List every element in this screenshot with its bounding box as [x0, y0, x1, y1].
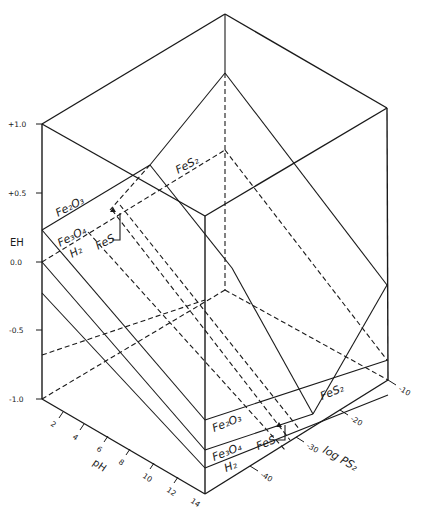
ph-tick-10: 10 [141, 471, 154, 484]
label-h2-left: H₂ [67, 243, 85, 261]
left-face-boundaries [42, 73, 387, 468]
ps2-axis-label: log PS₂ [321, 443, 361, 474]
ps2-tick-m30: -30 [305, 441, 320, 455]
label-fe2o3-left: Fe₂O₃ [53, 194, 87, 220]
ph-axis: 2 4 6 8 10 12 14 pH [49, 412, 202, 509]
label-fes2-front: FeS₂ [318, 381, 346, 402]
ps2-tick-m10: -10 [397, 384, 412, 398]
ps2-tick-m40: -40 [259, 470, 274, 484]
ph-axis-label: pH [91, 457, 109, 474]
ph-tick-12: 12 [165, 485, 178, 498]
eh-tick-p10: +1.0 [8, 120, 26, 129]
phase-labels-left: Fe₂O₃ Fe₃O₄ H₂ FeS FeS₂ [53, 153, 201, 260]
ph-tick-8: 8 [117, 457, 126, 467]
ph-tick-6: 6 [95, 444, 104, 454]
label-fes-front: FeS [254, 433, 278, 453]
eh-tick-p05: +0.5 [8, 189, 26, 198]
ph-tick-14: 14 [189, 496, 202, 509]
ps2-tick-m20: -20 [349, 414, 364, 428]
eh-axis-label: EH [10, 237, 24, 248]
right-face-boundaries [205, 268, 388, 468]
label-fe2o3-front: Fe₂O₃ [210, 411, 244, 435]
interior-dashed [42, 150, 387, 450]
label-fes-left: FeS [93, 232, 117, 253]
ph-tick-2: 2 [49, 419, 58, 429]
eh-axis: +1.0 +0.5 0.0 -0.5 -1.0 EH [8, 120, 42, 404]
eh-tick-m05: -0.5 [9, 326, 24, 335]
hidden-edges [42, 73, 388, 399]
ph-tick-4: 4 [71, 432, 80, 442]
stability-diagram: +1.0 +0.5 0.0 -0.5 -1.0 EH 2 4 6 8 10 12… [0, 0, 422, 516]
phase-labels-front: Fe₂O₃ Fe₃O₄ H₂ FeS FeS₂ [210, 381, 346, 474]
eh-tick-00: 0.0 [10, 258, 22, 267]
eh-tick-m10: -1.0 [9, 395, 24, 404]
